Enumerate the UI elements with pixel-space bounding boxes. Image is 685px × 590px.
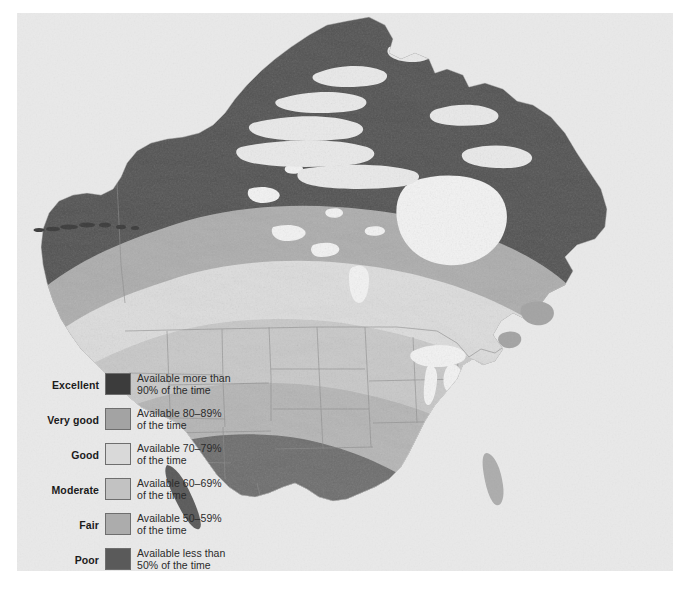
legend-description-very-good: Available 80–89% of the time	[137, 406, 222, 431]
legend-description-moderate: Available 60–69% of the time	[137, 476, 222, 501]
legend-swatch-excellent	[105, 373, 131, 395]
availability-map-figure: Excellent Available more than 90% of the…	[0, 0, 685, 590]
map-panel: Excellent Available more than 90% of the…	[17, 13, 673, 571]
legend-label-moderate: Moderate	[37, 476, 105, 496]
legend-swatch-poor	[105, 548, 131, 570]
legend-description-excellent: Available more than 90% of the time	[137, 371, 231, 396]
legend-label-excellent: Excellent	[37, 371, 105, 391]
legend-swatch-good	[105, 443, 131, 465]
legend-swatch-fair	[105, 513, 131, 535]
legend-swatch-very-good	[105, 408, 131, 430]
legend-description-good: Available 70–79% of the time	[137, 441, 222, 466]
legend-description-poor: Available less than 50% of the time	[137, 546, 225, 571]
legend-row-excellent: Excellent Available more than 90% of the…	[37, 371, 242, 406]
legend-label-good: Good	[37, 441, 105, 461]
legend-label-poor: Poor	[37, 546, 105, 566]
legend-row-poor: Poor Available less than 50% of the time	[37, 546, 242, 571]
legend-row-fair: Fair Available 50–59% of the time	[37, 511, 242, 546]
map-legend: Excellent Available more than 90% of the…	[37, 371, 242, 571]
legend-row-very-good: Very good Available 80–89% of the time	[37, 406, 242, 441]
legend-swatch-moderate	[105, 478, 131, 500]
legend-label-very-good: Very good	[37, 406, 105, 426]
legend-description-fair: Available 50–59% of the time	[137, 511, 222, 536]
legend-label-fair: Fair	[37, 511, 105, 531]
legend-row-good: Good Available 70–79% of the time	[37, 441, 242, 476]
legend-row-moderate: Moderate Available 60–69% of the time	[37, 476, 242, 511]
